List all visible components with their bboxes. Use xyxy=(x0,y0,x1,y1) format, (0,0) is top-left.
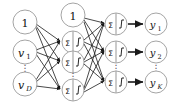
node-hidden-neuron-3[interactable]: Σ xyxy=(62,79,84,101)
node-label: y xyxy=(149,47,156,58)
node-output-y1[interactable]: y 1 xyxy=(145,13,167,35)
node-input-bias[interactable]: 1 xyxy=(13,10,37,34)
node-subscript: D xyxy=(25,85,32,93)
node-circle xyxy=(145,41,167,63)
node-label: v xyxy=(18,47,25,60)
node-output-y2[interactable]: y 2 xyxy=(145,41,167,63)
node-circle xyxy=(13,40,37,64)
sum-symbol: Σ xyxy=(108,21,113,30)
node-hidden-neuron-1[interactable]: Σ xyxy=(62,31,84,53)
node-label: y xyxy=(149,77,156,88)
sum-symbol: Σ xyxy=(108,79,113,88)
node-output-neuron-2[interactable]: Σ xyxy=(105,41,127,63)
node-label: v xyxy=(18,79,25,92)
input-layer: 1 v 1 ⋮ v D xyxy=(13,10,37,96)
node-input-vD[interactable]: v D xyxy=(13,72,37,96)
node-subscript: 1 xyxy=(157,25,161,33)
node-circle xyxy=(145,13,167,35)
sum-symbol: Σ xyxy=(65,59,70,68)
node-label: 1 xyxy=(22,17,29,30)
network-canvas: 1 v 1 ⋮ v D 1 Σ Σ xyxy=(0,0,174,105)
node-output-neuron-1[interactable]: Σ xyxy=(105,13,127,35)
node-subscript: 1 xyxy=(26,53,30,61)
node-subscript: 2 xyxy=(157,53,161,61)
node-circle xyxy=(13,72,37,96)
node-hidden-bias[interactable]: 1 xyxy=(61,3,85,27)
neural-network-diagram: 1 v 1 ⋮ v D 1 Σ Σ xyxy=(0,0,174,105)
node-label: 1 xyxy=(70,10,77,23)
node-circle xyxy=(145,71,167,93)
sum-symbol: Σ xyxy=(108,49,113,58)
output-value-layer: y 1 y 2 ⋮ y K xyxy=(145,13,167,93)
node-output-neuron-3[interactable]: Σ xyxy=(105,71,127,93)
output-neuron-layer: Σ Σ ⋮ Σ xyxy=(105,13,127,93)
node-input-v1[interactable]: v 1 xyxy=(13,40,37,64)
input-ellipsis: ⋮ xyxy=(21,63,30,73)
node-output-yK[interactable]: y K xyxy=(145,71,167,93)
node-hidden-neuron-2[interactable]: Σ xyxy=(62,51,84,73)
sum-symbol: Σ xyxy=(65,87,70,96)
node-label: y xyxy=(149,19,156,30)
sum-symbol: Σ xyxy=(65,39,70,48)
